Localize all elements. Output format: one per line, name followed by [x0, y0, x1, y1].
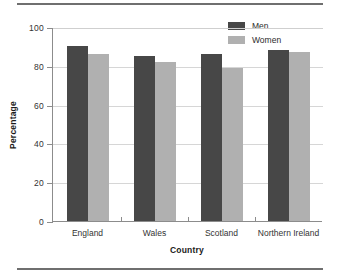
bar-men[interactable] — [67, 46, 88, 221]
y-axis-tick — [47, 67, 53, 68]
y-axis-tick-label: 40 — [34, 139, 44, 149]
y-axis-tick — [47, 222, 53, 223]
top-divider-rule — [17, 3, 323, 5]
bar-groups: EnglandWalesScotlandNorthern Ireland — [54, 28, 322, 221]
y-axis-tick-label: 100 — [29, 23, 44, 33]
y-axis-tick — [47, 183, 53, 184]
plot-area: 020406080100 EnglandWalesScotlandNorther… — [52, 28, 322, 222]
x-axis-tick — [255, 217, 256, 222]
y-axis-title: Percentage — [8, 101, 18, 149]
bar-women[interactable] — [88, 54, 109, 221]
bar-group: Wales — [121, 28, 188, 221]
bar-men[interactable] — [268, 50, 289, 221]
x-axis-tick — [121, 217, 122, 222]
bar-group: England — [54, 28, 121, 221]
bar-group: Northern Ireland — [255, 28, 322, 221]
x-axis-tick-label: England — [72, 228, 103, 238]
y-axis-tick-label: 0 — [39, 217, 44, 227]
x-axis-tick — [188, 217, 189, 222]
x-axis-title: Country — [52, 245, 322, 255]
figure: Percentage Country Men Women 02040608010… — [0, 0, 340, 277]
bar-men[interactable] — [201, 54, 222, 221]
bar-women[interactable] — [155, 62, 176, 221]
x-axis-tick-label: Wales — [143, 228, 166, 238]
bar-men[interactable] — [134, 56, 155, 221]
y-axis-tick-label: 80 — [34, 62, 44, 72]
x-axis-tick-label: Scotland — [205, 228, 238, 238]
y-axis-tick — [47, 144, 53, 145]
bottom-divider-rule — [17, 268, 323, 270]
bar-women[interactable] — [289, 52, 310, 221]
y-axis-tick-label: 60 — [34, 101, 44, 111]
bar-women[interactable] — [222, 68, 243, 221]
y-axis-tick-label: 20 — [34, 178, 44, 188]
y-axis-tick — [47, 28, 53, 29]
x-axis-tick-label: Northern Ireland — [258, 228, 319, 238]
y-axis-tick — [47, 106, 53, 107]
bar-group: Scotland — [188, 28, 255, 221]
